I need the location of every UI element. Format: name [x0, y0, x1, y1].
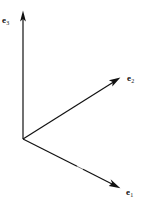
- vector-e1-shaft-break: [77, 166, 83, 169]
- axes-vector-graphic: [0, 0, 144, 203]
- axis-label-e3-subscript: 3: [6, 20, 9, 26]
- vector-e2-arrowhead: [109, 78, 121, 87]
- axis-label-e3: e3: [2, 16, 9, 26]
- axis-label-e2-subscript: 2: [131, 78, 134, 84]
- vector-e1-shaft-lower: [83, 169, 113, 184]
- axis-label-e1: e1: [126, 188, 133, 198]
- vector-e1-shaft-upper: [23, 139, 77, 166]
- vector-e2-shaft: [23, 82, 114, 139]
- vector-e1: [23, 139, 120, 188]
- vector-e2: [23, 78, 120, 139]
- axis-label-e1-subscript: 1: [130, 192, 133, 198]
- axis-label-e2: e2: [127, 74, 134, 84]
- vector-e3: [20, 11, 26, 140]
- axes-diagram: e3 e2 e1: [0, 0, 144, 203]
